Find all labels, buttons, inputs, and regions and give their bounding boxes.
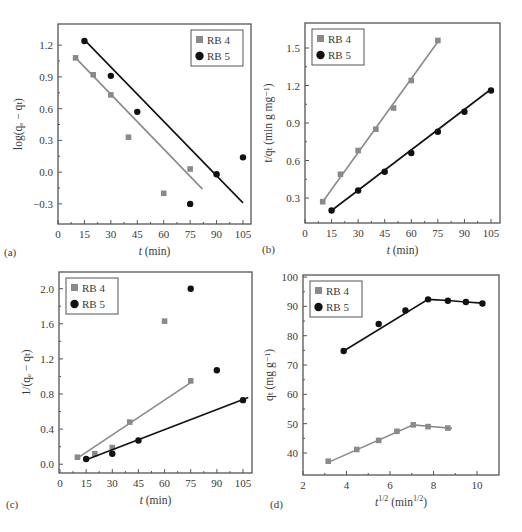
data-point-square	[391, 105, 397, 111]
data-point-circle	[240, 154, 246, 160]
data-point-square	[408, 78, 414, 84]
y-tick-label: 90	[287, 300, 299, 312]
data-point-circle	[375, 321, 381, 327]
data-point-square	[355, 148, 361, 154]
panel-b-pseudo-second-order: 01530456075901050.30.60.91.21.5t (min)t/…	[262, 23, 500, 257]
data-point-circle	[479, 300, 485, 306]
data-point-circle	[213, 171, 219, 177]
y-tick-label: 0.3	[286, 192, 300, 204]
data-point-circle	[188, 285, 194, 291]
fit-line	[344, 299, 483, 351]
y-tick-label: 0.8	[40, 388, 54, 400]
data-point-circle	[328, 207, 334, 213]
fit-line	[323, 42, 438, 202]
legend-square-icon	[196, 36, 203, 43]
panel-label: (d)	[270, 498, 283, 511]
data-point-circle	[463, 299, 469, 305]
y-tick-label: 0.0	[40, 458, 54, 470]
series-rb4	[325, 422, 452, 464]
data-point-square	[73, 55, 79, 61]
legend: RB 4RB 5	[66, 278, 118, 314]
legend-label-rb5: RB 5	[207, 50, 230, 62]
data-point-circle	[340, 348, 346, 354]
legend: RB 4RB 5	[310, 281, 362, 317]
legend-square-icon	[317, 35, 324, 42]
x-tick-label: 75	[185, 477, 197, 489]
x-tick-label: 90	[211, 228, 223, 240]
legend-label-rb5: RB 5	[82, 298, 105, 310]
x-tick-label: 60	[159, 477, 171, 489]
fit-line	[77, 383, 190, 458]
data-point-square	[188, 378, 194, 384]
fit-line	[328, 425, 452, 463]
legend-circle-icon	[70, 300, 78, 308]
y-axis-title: 1/(qₑ − qₜ)	[20, 349, 33, 395]
data-point-circle	[425, 296, 431, 302]
data-point-circle	[108, 73, 114, 79]
data-point-circle	[402, 307, 408, 313]
x-tick-label: 0	[57, 477, 63, 489]
x-tick-label: 0	[55, 228, 61, 240]
legend-label-rb4: RB 4	[326, 285, 349, 297]
data-point-circle	[382, 169, 388, 175]
panel-c-second-order: 01530456075901050.00.40.81.21.62.0t (min…	[6, 272, 252, 511]
legend-label-rb4: RB 4	[328, 33, 351, 45]
x-tick-label: 30	[353, 227, 365, 239]
data-point-square	[126, 134, 132, 140]
x-tick-label: 90	[211, 477, 223, 489]
data-point-circle	[435, 129, 441, 135]
data-point-square	[90, 72, 96, 78]
data-point-square	[75, 454, 81, 460]
y-tick-label: 2.0	[40, 283, 54, 295]
x-axis-title: t (min)	[140, 494, 172, 507]
data-point-square	[338, 171, 344, 177]
series-rb4	[75, 318, 194, 460]
panel-label: (c)	[6, 498, 19, 511]
x-tick-label: 90	[459, 227, 471, 239]
data-point-circle	[83, 456, 89, 462]
y-tick-label: 0.6	[39, 103, 53, 115]
x-tick-label: 75	[185, 228, 197, 240]
data-point-circle	[355, 187, 361, 193]
x-tick-label: 15	[79, 228, 91, 240]
x-tick-label: 30	[105, 228, 117, 240]
data-point-square	[376, 438, 382, 444]
y-axis-title: qₜ (mg g⁻¹)	[263, 349, 276, 401]
y-tick-label: 50	[287, 418, 299, 430]
x-tick-label: 15	[326, 227, 338, 239]
x-axis: 246810	[300, 471, 483, 491]
legend-label-rb4: RB 4	[207, 34, 230, 46]
legend-label-rb5: RB 5	[326, 301, 349, 313]
data-point-square	[435, 38, 441, 44]
data-point-square	[162, 318, 168, 324]
series-rb4	[73, 55, 203, 196]
x-tick-label: 105	[235, 228, 252, 240]
legend-circle-icon	[316, 51, 324, 59]
x-tick-label: 45	[133, 477, 145, 489]
y-tick-label: 1.2	[40, 353, 54, 365]
data-point-circle	[81, 38, 87, 44]
y-tick-label: 60	[287, 388, 299, 400]
legend: RB 4RB 5	[312, 29, 364, 65]
data-point-circle	[109, 450, 115, 456]
y-tick-label: 0.0	[39, 166, 53, 178]
y-tick-label: 1.6	[40, 318, 54, 330]
x-tick-label: 60	[406, 227, 418, 239]
data-point-square	[320, 199, 326, 205]
data-point-square	[425, 424, 431, 430]
data-point-square	[127, 419, 133, 425]
x-tick-label: 8	[431, 479, 437, 491]
x-tick-label: 2	[300, 479, 306, 491]
x-axis: 0153045607590105	[57, 469, 252, 489]
panel-label: (b)	[262, 243, 275, 256]
data-point-circle	[408, 150, 414, 156]
x-tick-label: 4	[344, 479, 350, 491]
data-point-circle	[134, 109, 140, 115]
y-tick-label: −0.3	[33, 198, 53, 210]
x-tick-label: 15	[81, 477, 93, 489]
y-tick-label: 0.9	[39, 71, 53, 83]
legend-circle-icon	[195, 52, 203, 60]
series-rb5	[328, 87, 494, 213]
x-axis-title: t1/2 (min1/2)	[375, 494, 427, 509]
legend-label-rb4: RB 4	[82, 282, 105, 294]
